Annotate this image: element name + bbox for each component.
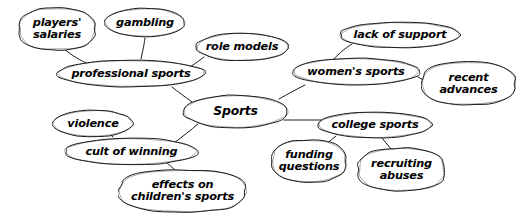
concept-node-effects-childrens[interactable]: effects on children's sports bbox=[118, 169, 247, 213]
concept-node-lack-of-support[interactable]: lack of support bbox=[339, 21, 461, 49]
concept-node-role-models[interactable]: role models bbox=[195, 32, 289, 62]
concept-node-college-sports[interactable]: college sports bbox=[317, 111, 433, 139]
concept-node-label: Sports bbox=[211, 105, 260, 118]
concept-node-label: recent advances bbox=[437, 72, 499, 95]
concept-node-label: college sports bbox=[329, 119, 420, 131]
concept-node-gambling[interactable]: gambling bbox=[104, 7, 186, 38]
concept-node-label: gambling bbox=[114, 17, 176, 29]
concept-node-violence[interactable]: violence bbox=[52, 109, 134, 138]
concept-node-cult-of-winning[interactable]: cult of winning bbox=[64, 137, 199, 166]
concept-node-label: lack of support bbox=[352, 29, 449, 41]
concept-node-recent-advances[interactable]: recent advances bbox=[421, 61, 516, 106]
node-layer: players' salariesgamblingrole modelslack… bbox=[0, 0, 521, 217]
concept-node-label: women's sports bbox=[305, 66, 406, 78]
concept-node-label: role models bbox=[204, 41, 280, 53]
concept-node-label: professional sports bbox=[69, 68, 192, 80]
concept-node-label: players' salaries bbox=[31, 17, 83, 40]
concept-node-label: recruiting abuses bbox=[369, 158, 434, 181]
concept-map: players' salariesgamblingrole modelslack… bbox=[0, 0, 521, 217]
concept-node-professional-sports[interactable]: professional sports bbox=[56, 59, 206, 88]
concept-node-funding-questions[interactable]: funding questions bbox=[271, 139, 347, 183]
concept-node-recruiting-abuses[interactable]: recruiting abuses bbox=[357, 147, 446, 192]
concept-node-players-salaries[interactable]: players' salaries bbox=[18, 7, 96, 51]
concept-node-womens-sports[interactable]: women's sports bbox=[291, 57, 421, 86]
concept-node-label: violence bbox=[65, 118, 120, 130]
concept-node-label: cult of winning bbox=[84, 146, 180, 158]
concept-node-label: funding questions bbox=[277, 149, 342, 172]
concept-node-label: effects on children's sports bbox=[129, 179, 236, 202]
concept-node-sports[interactable]: Sports bbox=[182, 94, 289, 129]
